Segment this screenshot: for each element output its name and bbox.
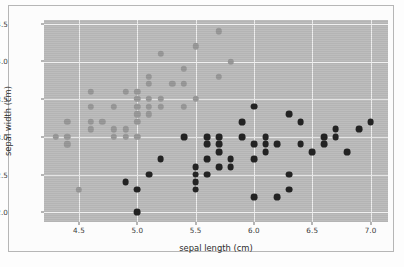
scatter-point: [146, 96, 152, 102]
scatter-point: [250, 156, 257, 163]
scatter-point: [216, 73, 222, 79]
scatter-point: [250, 103, 257, 110]
y-tick-label: 2.0: [0, 208, 8, 217]
y-tick-label: 4.0: [0, 57, 8, 66]
scatter-point: [215, 148, 222, 155]
scatter-point: [134, 111, 140, 117]
x-tick-label: 5.0: [131, 226, 143, 235]
scatter-point: [134, 96, 140, 102]
scatter-point: [297, 118, 304, 125]
scatter-point: [320, 141, 327, 148]
scatter-point: [215, 164, 222, 171]
x-tick-label: 5.5: [190, 226, 202, 235]
scatter-point: [76, 186, 82, 192]
y-tick-mark: [41, 99, 44, 100]
scatter-point: [192, 164, 199, 171]
scatter-point: [227, 156, 234, 163]
gridline-horizontal: [44, 24, 388, 25]
scatter-point: [227, 58, 233, 64]
scatter-point: [111, 103, 117, 109]
scatter-point: [180, 133, 187, 140]
scatter-point: [122, 88, 128, 94]
figure: sepal width (cm) 2.02.53.03.54.04.5 4.55…: [0, 0, 404, 267]
scatter-point: [146, 103, 152, 109]
y-tick-mark: [41, 61, 44, 62]
scatter-point: [87, 126, 93, 132]
scatter-point: [192, 96, 198, 102]
scatter-point: [192, 179, 199, 186]
x-tick-label: 6.0: [248, 226, 260, 235]
scatter-point: [169, 81, 175, 87]
y-tick-mark: [41, 23, 44, 24]
x-tick-mark: [253, 222, 254, 225]
y-tick-label: 3.5: [0, 95, 8, 104]
scatter-point: [285, 111, 292, 118]
scatter-point: [181, 103, 187, 109]
scatter-point: [262, 133, 269, 140]
scatter-point: [146, 73, 152, 79]
scatter-point: [146, 111, 152, 117]
scatter-point: [157, 156, 164, 163]
scatter-point: [332, 126, 339, 133]
scatter-point: [145, 171, 152, 178]
scatter-point: [204, 156, 211, 163]
x-tick-label: 7.0: [365, 226, 377, 235]
scatter-point: [64, 134, 70, 140]
scatter-point: [157, 51, 163, 57]
scatter-point: [367, 118, 374, 125]
scatter-point: [134, 134, 140, 140]
scatter-point: [227, 164, 234, 171]
x-tick-mark: [137, 222, 138, 225]
x-tick-mark: [195, 222, 196, 225]
scatter-point: [157, 103, 163, 109]
scatter-point: [274, 194, 281, 201]
scatter-point: [122, 126, 128, 132]
x-tick-mark: [312, 222, 313, 225]
scatter-point: [285, 171, 292, 178]
scatter-point: [64, 141, 70, 147]
scatter-point: [134, 119, 140, 125]
scatter-point: [122, 134, 128, 140]
scatter-point: [134, 88, 140, 94]
scatter-point: [99, 119, 105, 125]
scatter-point: [250, 141, 257, 148]
scatter-point: [181, 81, 187, 87]
scatter-point: [87, 119, 93, 125]
y-tick-label: 4.5: [0, 19, 8, 28]
scatter-point: [192, 171, 199, 178]
scatter-point: [274, 141, 281, 148]
plot-area: [44, 20, 388, 222]
y-tick-mark: [41, 212, 44, 213]
scatter-point: [204, 141, 211, 148]
scatter-point: [344, 148, 351, 155]
scatter-point: [355, 126, 362, 133]
y-tick-label: 3.0: [0, 132, 8, 141]
scatter-point: [181, 66, 187, 72]
scatter-point: [87, 103, 93, 109]
scatter-point: [87, 88, 93, 94]
scatter-point: [111, 134, 117, 140]
gridline-horizontal: [44, 175, 388, 176]
scatter-point: [134, 186, 141, 193]
scatter-point: [215, 141, 222, 148]
scatter-point: [239, 133, 246, 140]
scatter-point: [157, 96, 163, 102]
scatter-point: [122, 179, 129, 186]
x-tick-label: 4.5: [73, 226, 85, 235]
y-tick-mark: [41, 174, 44, 175]
x-tick-label: 6.5: [306, 226, 318, 235]
scatter-point: [204, 133, 211, 140]
scatter-point: [332, 133, 339, 140]
x-tick-mark: [370, 222, 371, 225]
scatter-point: [111, 126, 117, 132]
scatter-point: [146, 81, 152, 87]
gridline-vertical: [312, 20, 313, 222]
gridline-horizontal: [44, 62, 388, 63]
scatter-point: [192, 186, 199, 193]
scatter-point: [239, 118, 246, 125]
gridline-vertical: [254, 20, 255, 222]
scatter-point: [204, 171, 211, 178]
gridline-horizontal: [44, 99, 388, 100]
scatter-point: [285, 186, 292, 193]
y-tick-label: 2.5: [0, 170, 8, 179]
